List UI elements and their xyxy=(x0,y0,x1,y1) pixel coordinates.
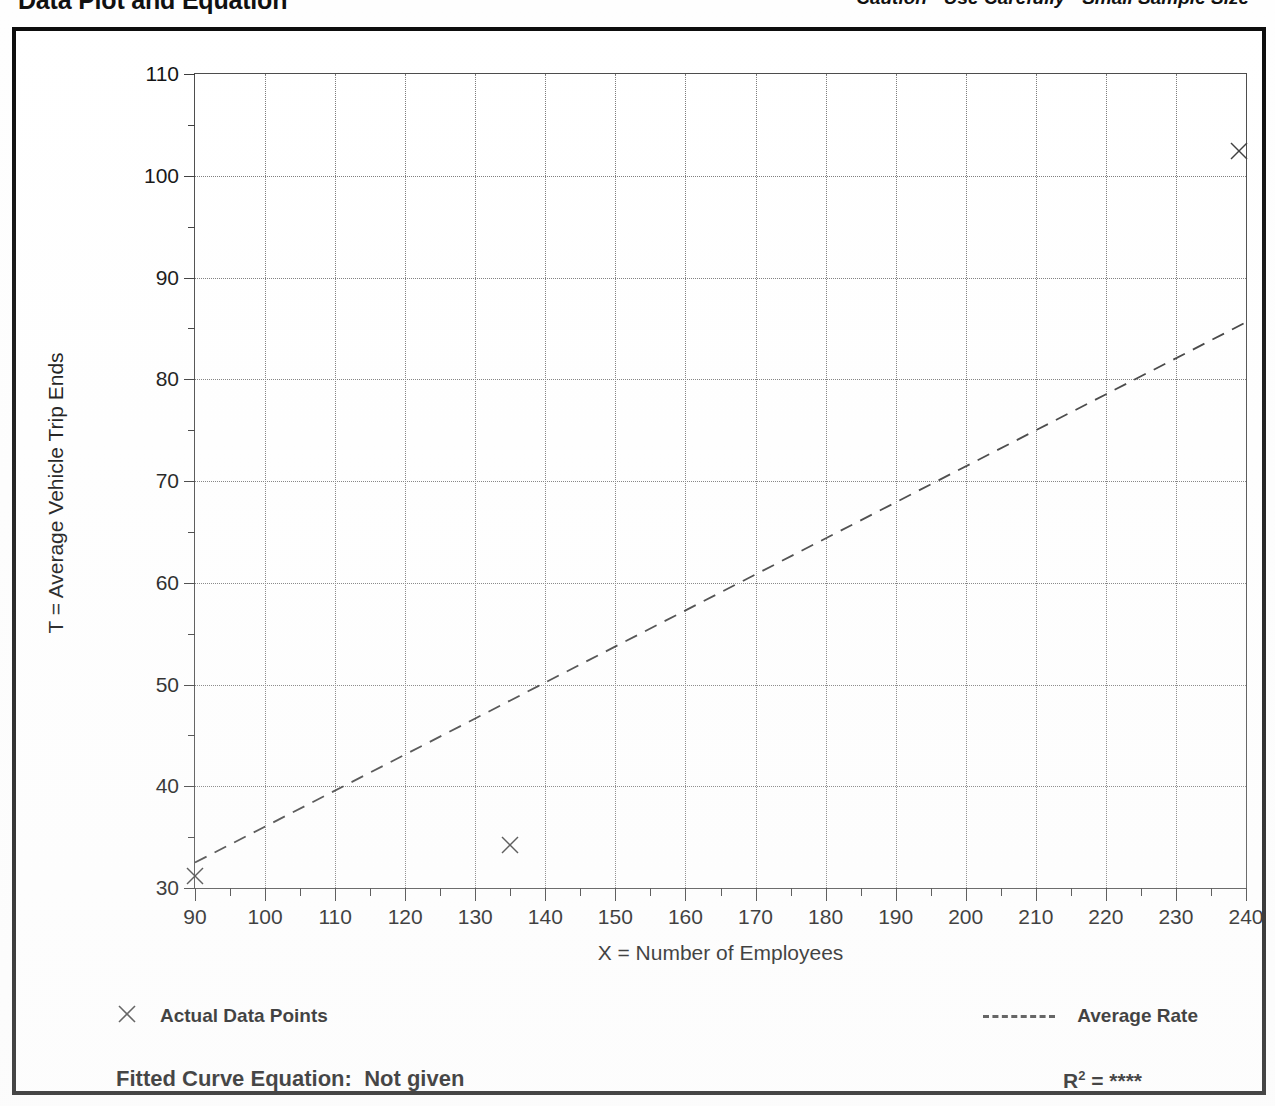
x-tick-major xyxy=(545,888,546,901)
dashed-line-icon xyxy=(983,1015,1055,1018)
chart-area: T = Average Vehicle Trip Ends 9010011012… xyxy=(16,31,1270,1099)
x-tick-major xyxy=(966,888,967,901)
y-tick-minor xyxy=(188,227,195,228)
x-tick-minor xyxy=(370,888,371,896)
y-tick-minor xyxy=(188,532,195,533)
x-tick-major xyxy=(685,888,686,901)
x-tick-minor xyxy=(440,888,441,896)
x-tick-minor xyxy=(1071,888,1072,896)
y-tick-major xyxy=(184,176,195,177)
y-tick-label: 90 xyxy=(156,266,179,290)
x-tick-minor xyxy=(1141,888,1142,896)
x-tick-major xyxy=(335,888,336,901)
x-tick-label: 90 xyxy=(183,905,206,929)
x-tick-label: 190 xyxy=(878,905,913,929)
x-axis-title: X = Number of Employees xyxy=(194,941,1247,965)
y-tick-major xyxy=(184,379,195,380)
x-tick-minor xyxy=(1001,888,1002,896)
x-tick-label: 130 xyxy=(458,905,493,929)
x-tick-minor xyxy=(861,888,862,896)
x-tick-minor xyxy=(580,888,581,896)
legend-actual-data-points: Actual Data Points xyxy=(116,1003,328,1029)
series-svg xyxy=(195,74,1246,888)
x-tick-label: 110 xyxy=(318,905,351,929)
x-tick-major xyxy=(615,888,616,901)
y-tick-major xyxy=(184,888,195,889)
fitted-curve-equation: Fitted Curve Equation: Not given xyxy=(116,1066,464,1092)
r2-equals: = xyxy=(1085,1069,1109,1092)
equation-label: Fitted Curve Equation: xyxy=(116,1066,352,1091)
x-tick-minor xyxy=(791,888,792,896)
x-tick-minor xyxy=(721,888,722,896)
r2-label: R xyxy=(1063,1069,1078,1092)
y-tick-minor xyxy=(188,735,195,736)
y-tick-label: 60 xyxy=(156,571,179,595)
equation-value: Not given xyxy=(364,1066,464,1091)
y-tick-minor xyxy=(188,634,195,635)
y-tick-label: 100 xyxy=(144,164,179,188)
legend-average-rate: Average Rate xyxy=(983,1005,1198,1027)
y-tick-label: 40 xyxy=(156,774,179,798)
x-tick-major xyxy=(195,888,196,901)
x-tick-major xyxy=(475,888,476,901)
chart-page: Data Plot and Equation Caution - Use Car… xyxy=(0,0,1275,1106)
x-tick-minor xyxy=(300,888,301,896)
x-tick-label: 200 xyxy=(948,905,983,929)
y-tick-minor xyxy=(188,430,195,431)
y-tick-minor xyxy=(188,837,195,838)
r-squared-value: R2 = **** xyxy=(1063,1068,1142,1093)
x-marker-icon xyxy=(116,1003,138,1029)
x-tick-label: 120 xyxy=(388,905,423,929)
data-point-marker xyxy=(1229,141,1249,161)
y-tick-label: 30 xyxy=(156,876,179,900)
x-tick-label: 140 xyxy=(528,905,563,929)
x-tick-label: 210 xyxy=(1018,905,1053,929)
x-tick-label: 220 xyxy=(1088,905,1123,929)
x-tick-major xyxy=(896,888,897,901)
x-tick-major xyxy=(1036,888,1037,901)
x-tick-major xyxy=(756,888,757,901)
plot-region: 9010011012013014015016017018019020021022… xyxy=(194,73,1247,889)
x-tick-major xyxy=(1246,888,1247,901)
x-tick-major xyxy=(405,888,406,901)
r2-stars: **** xyxy=(1109,1069,1142,1092)
x-tick-label: 230 xyxy=(1158,905,1193,929)
page-title: Data Plot and Equation xyxy=(18,0,287,15)
x-tick-label: 240 xyxy=(1228,905,1263,929)
legend-label-data-points: Actual Data Points xyxy=(160,1005,328,1027)
data-point-marker xyxy=(500,835,520,855)
y-tick-major xyxy=(184,74,195,75)
y-tick-label: 80 xyxy=(156,367,179,391)
x-tick-minor xyxy=(650,888,651,896)
chart-frame: T = Average Vehicle Trip Ends 9010011012… xyxy=(12,27,1266,1095)
x-tick-major xyxy=(826,888,827,901)
caution-note: Caution - Use Carefully - Small Sample S… xyxy=(856,0,1249,9)
y-axis-title: T = Average Vehicle Trip Ends xyxy=(44,183,68,803)
x-tick-minor xyxy=(510,888,511,896)
x-tick-label: 100 xyxy=(248,905,283,929)
x-tick-label: 160 xyxy=(668,905,703,929)
x-tick-minor xyxy=(230,888,231,896)
y-tick-label: 50 xyxy=(156,673,179,697)
x-tick-label: 180 xyxy=(808,905,843,929)
x-tick-label: 150 xyxy=(598,905,633,929)
y-tick-minor xyxy=(188,328,195,329)
x-tick-minor xyxy=(931,888,932,896)
y-tick-minor xyxy=(188,125,195,126)
x-tick-major xyxy=(1176,888,1177,901)
y-tick-label: 110 xyxy=(146,62,179,86)
y-tick-major xyxy=(184,583,195,584)
y-tick-major xyxy=(184,278,195,279)
x-tick-label: 170 xyxy=(738,905,773,929)
x-tick-major xyxy=(265,888,266,901)
x-tick-minor xyxy=(1211,888,1212,896)
average-rate-line xyxy=(195,322,1246,862)
y-tick-label: 70 xyxy=(156,469,179,493)
y-tick-major xyxy=(184,786,195,787)
y-tick-major xyxy=(184,481,195,482)
legend-label-average-rate: Average Rate xyxy=(1077,1005,1198,1027)
data-point-marker xyxy=(185,866,205,886)
x-tick-major xyxy=(1106,888,1107,901)
y-tick-major xyxy=(184,685,195,686)
